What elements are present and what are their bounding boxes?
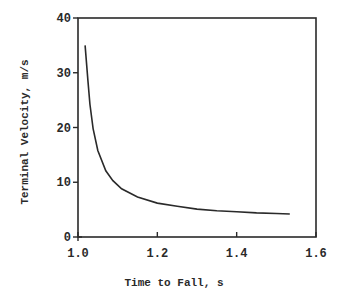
x-tick-label: 1.4 (226, 247, 248, 261)
chart: 010203040 1.01.21.41.6 Time to Fall, s T… (0, 0, 343, 300)
data-line (85, 45, 290, 214)
y-tick-label: 0 (64, 231, 71, 245)
y-tick-label: 30 (57, 67, 71, 81)
x-tick-label: 1.0 (67, 247, 89, 261)
y-tick-label: 10 (57, 176, 71, 190)
plot-border (78, 18, 316, 237)
x-tick-label: 1.2 (147, 247, 169, 261)
y-axis-title: Terminal Velocity, m/s (19, 59, 31, 204)
plot-frame (78, 18, 316, 237)
y-tick-label: 20 (57, 122, 71, 136)
x-axis-title: Time to Fall, s (124, 277, 223, 289)
y-tick-label: 40 (57, 12, 71, 26)
x-tick-label: 1.6 (305, 247, 327, 261)
